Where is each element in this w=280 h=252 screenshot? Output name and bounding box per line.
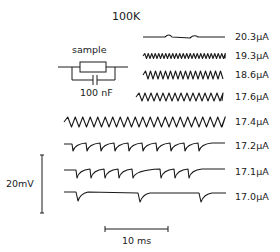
current-label-1: 19.3μA <box>235 50 269 61</box>
current-label-6: 17.1μA <box>235 166 269 177</box>
sample-label: sample <box>72 44 107 55</box>
circuit-diagram <box>58 62 128 85</box>
current-label-0: 20.3μA <box>235 31 269 42</box>
current-label-4: 17.4μA <box>235 116 269 127</box>
trace-17-2 <box>64 143 225 151</box>
voltage-scale-bar <box>40 155 44 213</box>
trace-18-6 <box>143 71 223 79</box>
temperature-title: 100K <box>112 10 140 23</box>
voltage-scale-label: 20mV <box>6 178 34 189</box>
current-label-2: 18.6μA <box>235 69 269 80</box>
trace-17-0 <box>64 192 226 202</box>
capacitor-label: 100 nF <box>80 87 113 98</box>
trace-20-3 <box>143 35 225 38</box>
time-scale-label: 10 ms <box>122 235 151 246</box>
time-scale-bar <box>105 226 168 232</box>
trace-17-1 <box>64 169 225 178</box>
current-label-3: 17.6μA <box>235 91 269 102</box>
trace-17-4 <box>64 117 225 127</box>
trace-19-3 <box>143 54 225 59</box>
current-label-7: 17.0μA <box>235 191 269 202</box>
trace-17-6 <box>136 93 223 101</box>
current-label-5: 17.2μA <box>235 140 269 151</box>
